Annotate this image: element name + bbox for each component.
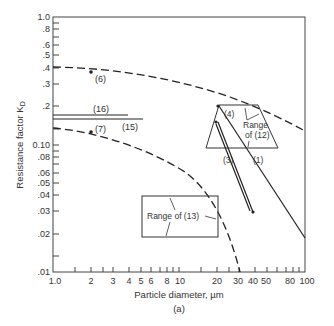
label-6: (6): [95, 74, 106, 84]
range-12-label-line2: of (12): [245, 130, 270, 140]
data-point-6: [89, 70, 93, 74]
x-tick-label: 100: [299, 276, 314, 286]
x-tick-label: 8: [164, 276, 169, 286]
y-tick-label: .8: [42, 24, 50, 34]
y-tick-label: .04: [37, 190, 50, 200]
x-axis-title: Particle diameter, µm: [134, 289, 224, 300]
y-tick-label: .3: [42, 79, 50, 89]
x-tick-label: 10: [175, 276, 185, 286]
label-7: (7): [95, 124, 106, 134]
y-tick-label: 1.0: [37, 12, 50, 22]
y-tick-label: .6: [42, 40, 50, 50]
y-tick-label: .4: [42, 63, 50, 73]
plot-frame: [53, 17, 305, 272]
range-13-label: Range of (13): [147, 211, 199, 221]
panel-label: (a): [173, 303, 185, 314]
x-tick-label: 80: [285, 276, 295, 286]
x-axis-ticks: [75, 267, 299, 272]
endpoint-4-bottom: [251, 210, 254, 213]
label-16: (16): [93, 104, 109, 114]
label-4: (4): [224, 109, 235, 119]
x-tick-label: 1.0: [49, 276, 62, 286]
x-tick-label: 20: [212, 276, 222, 286]
endpoint-3-top: [214, 120, 217, 123]
y-tick-label: .2: [42, 101, 50, 111]
x-tick-label: 50: [261, 276, 271, 286]
x-tick-label: 30: [233, 276, 243, 286]
chart: 1.0 .8 .6 .5 .4 .3 .2 0.10 .08 .06 .05 .…: [0, 0, 334, 326]
lower-dashed-curve: [53, 128, 240, 272]
x-tick-label: 6: [148, 276, 153, 286]
label-15: (15): [122, 122, 138, 132]
range-12-label-line1: Range: [243, 120, 268, 130]
label-3: (3): [223, 155, 234, 165]
y-tick-label: 0.10: [32, 140, 50, 150]
x-tick-labels: 1.0 2 3 4 5 6 8 10 20 30 40 50 80 100: [49, 276, 315, 286]
y-tick-labels: 1.0 .8 .6 .5 .4 .3 .2 0.10 .08 .06 .05 .…: [32, 12, 50, 277]
x-tick-label: 3: [110, 276, 115, 286]
y-axis-ticks: [53, 23, 59, 256]
y-tick-label: .02: [37, 229, 50, 239]
svg-text:Resistance factor KD: Resistance factor KD: [14, 101, 26, 188]
y-tick-label: .05: [37, 178, 50, 188]
x-tick-label: 4: [126, 276, 131, 286]
x-tick-label: 40: [248, 276, 258, 286]
y-axis-title: Resistance factor KD: [14, 101, 26, 188]
data-point-7: [89, 130, 93, 134]
y-tick-label: .08: [37, 152, 50, 162]
endpoint-4-top: [216, 104, 219, 107]
y-tick-label: .06: [37, 168, 50, 178]
x-tick-label: 5: [138, 276, 143, 286]
y-tick-label: .03: [37, 206, 50, 216]
x-tick-label: 2: [88, 276, 93, 286]
label-1: (1): [253, 155, 264, 165]
y-tick-label: .5: [42, 50, 50, 60]
